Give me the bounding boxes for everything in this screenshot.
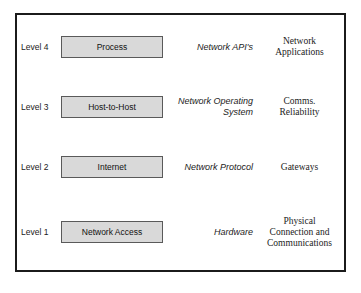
layer-function-level-3: Comms. Reliability [255, 96, 344, 118]
layer-function-level-2: Gateways [255, 162, 344, 173]
layer-function-line: Reliability [255, 107, 344, 118]
layer-box-host-to-host[interactable]: Host-to-Host [61, 96, 163, 118]
layer-function-line: Connection and [255, 227, 344, 238]
layer-function-line: Physical [255, 216, 344, 227]
layer-row-level-3: Level 3 Host-to-Host Network Operating S… [17, 77, 344, 137]
layer-function-level-1: Physical Connection and Communications [255, 216, 344, 249]
layer-service-level-1: Hardware [167, 227, 253, 238]
diagram-frame: Level 4 Process Network API's Network Ap… [15, 13, 346, 272]
layer-box-internet[interactable]: Internet [61, 156, 163, 178]
layer-row-level-2: Level 2 Internet Network Protocol Gatewa… [17, 137, 344, 197]
layer-function-line: Network [255, 36, 344, 47]
layer-service-level-3: Network Operating System [167, 96, 253, 118]
layer-box-process[interactable]: Process [61, 36, 163, 58]
layer-function-line: Applications [255, 47, 344, 58]
layer-box-label-internet: Internet [98, 162, 127, 172]
layer-box-label-network-access: Network Access [82, 227, 142, 237]
layer-row-level-4: Level 4 Process Network API's Network Ap… [17, 17, 344, 77]
layer-function-level-4: Network Applications [255, 36, 344, 58]
layer-service-level-4: Network API's [167, 42, 253, 53]
layer-box-network-access[interactable]: Network Access [61, 221, 163, 243]
layer-function-line: Gateways [255, 162, 344, 173]
figure-root: Level 4 Process Network API's Network Ap… [0, 0, 361, 293]
layer-box-label-process: Process [97, 42, 128, 52]
layer-function-line: Comms. [255, 96, 344, 107]
layer-function-line: Communications [255, 238, 344, 249]
layer-service-level-2: Network Protocol [167, 162, 253, 173]
layer-row-level-1: Level 1 Network Access Hardware Physical… [17, 202, 344, 262]
layer-box-label-host-to-host: Host-to-Host [88, 102, 136, 112]
